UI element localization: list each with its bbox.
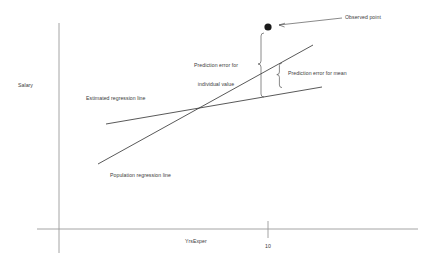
- observed-point-leader: [279, 18, 342, 25]
- individual-value-error-label-line1: Prediction error for: [180, 62, 252, 68]
- observed-point-marker: [264, 23, 271, 30]
- observed-point-arrowhead: [279, 23, 285, 27]
- individual-value-error-label-line2: individual value: [180, 81, 252, 87]
- y-axis-label: Salary: [18, 82, 58, 88]
- x-axis-label: YrsExper: [185, 238, 235, 244]
- observed-point-label: Observed point: [345, 14, 415, 20]
- x-tick-label-10: 10: [256, 243, 280, 249]
- individual-value-error-label: Prediction error for individual value: [180, 49, 252, 100]
- figure-canvas: Salary YrsExper 10 Observed point Estima…: [0, 0, 430, 267]
- regression-diagram: [0, 0, 430, 267]
- individual-value-error-brace: [258, 33, 264, 97]
- population-regression-line-label: Population regression line: [110, 172, 225, 178]
- mean-error-label: Prediction error for mean: [288, 70, 388, 76]
- mean-error-brace: [277, 63, 282, 88]
